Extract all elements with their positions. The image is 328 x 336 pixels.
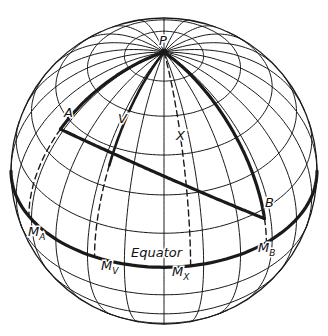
graticule <box>11 18 317 324</box>
mb-label: MB <box>258 240 275 258</box>
globe-diagram: P A V X B Equator MA MV MX MB <box>0 0 328 336</box>
point-a-label: A <box>63 105 73 120</box>
meridian-line <box>16 52 164 228</box>
pole-point <box>161 49 168 56</box>
equator-label: Equator <box>131 245 184 260</box>
dashed-meridian <box>164 52 191 266</box>
ma-label: MA <box>28 224 45 242</box>
dashed-meridian <box>265 219 267 243</box>
meridian-line <box>32 52 165 272</box>
point-v-label: V <box>118 111 128 126</box>
point-x-label: X <box>175 128 186 143</box>
great-circle-a-b <box>61 129 265 218</box>
meridian-dashed-lines <box>29 52 267 266</box>
meridian-line <box>164 20 190 52</box>
meridian-line <box>124 52 164 322</box>
pole-label: P <box>159 33 167 48</box>
mv-label: MV <box>101 258 119 276</box>
dashed-meridian <box>95 165 110 256</box>
point-b-label: B <box>265 195 274 210</box>
